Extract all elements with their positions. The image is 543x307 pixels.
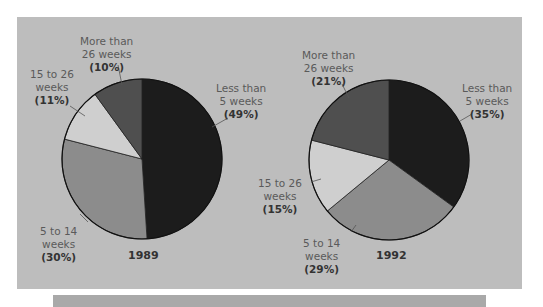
label-1989-more-than-26: More than 26 weeks (10%)	[80, 35, 133, 74]
year-1989: 1989	[128, 249, 159, 262]
label-1989-15-to-26: 15 to 26 weeks (11%)	[30, 68, 74, 107]
pie-1989	[62, 79, 222, 239]
label-1992-more-than-26: More than 26 weeks (21%)	[302, 49, 355, 88]
label-1992-15-to-26: 15 to 26 weeks (15%)	[258, 177, 302, 216]
label-1989-less-than-5: Less than 5 weeks (49%)	[216, 82, 266, 121]
pie-slice	[142, 79, 222, 239]
label-1989-5-to-14: 5 to 14 weeks (30%)	[40, 225, 77, 264]
pie-1992	[309, 80, 469, 240]
year-1992: 1992	[376, 249, 407, 262]
label-1992-5-to-14: 5 to 14 weeks (29%)	[303, 237, 340, 276]
label-1992-less-than-5: Less than 5 weeks (35%)	[462, 82, 512, 121]
